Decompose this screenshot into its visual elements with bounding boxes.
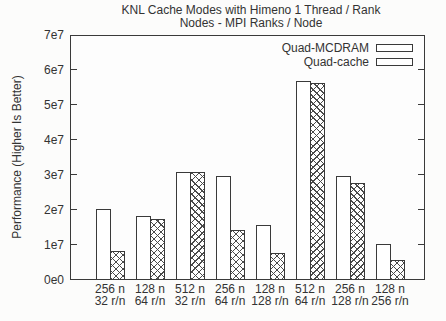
bar-quad-cache-512-n-64-r-n [310,83,325,279]
x-label-ranks: 256 r/n [360,296,420,308]
y-tick-label-6e7: 6e7 [34,64,64,76]
bar-quad-cache-128-n-64-r-n [150,219,165,279]
legend-swatch-quad-cache [376,58,413,66]
legend-label-quad-mcdram: Quad-MCDRAM [282,42,369,54]
bar-quad-mcdram-256-n-64-r-n [216,176,231,279]
y-tick-left-5e7 [71,104,77,105]
bar-quad-cache-512-n-32-r-n [190,172,205,279]
bar-quad-mcdram-256-n-128-r-n [336,176,351,279]
y-tick-left-2e7 [71,209,77,210]
y-tick-label-3e7: 3e7 [34,169,64,181]
y-tick-left-3e7 [71,174,77,175]
bar-quad-mcdram-128-n-64-r-n [136,216,151,279]
bar-quad-cache-128-n-128-r-n [270,253,285,279]
y-tick-label-1e7: 1e7 [34,239,64,251]
x-category-label-128-n-256-r-n: 128 n256 r/n [360,284,420,307]
legend-label-quad-cache: Quad-cache [304,56,369,68]
y-tick-left-4e7 [71,139,77,140]
bar-quad-mcdram-128-n-128-r-n [256,225,271,279]
y-tick-label-2e7: 2e7 [34,204,64,216]
legend-swatch-quad-mcdram [376,44,413,52]
y-tick-right-2e7 [418,209,424,210]
y-tick-left-1e7 [71,244,77,245]
bar-quad-cache-256-n-128-r-n [350,183,365,279]
legend-row-quad-mcdram: Quad-MCDRAM [282,42,413,54]
bar-quad-mcdram-512-n-32-r-n [176,172,191,279]
y-tick-label-7e7: 7e7 [34,29,64,41]
chart-subtitle: Nodes - MPI Ranks / Node [56,17,446,29]
bar-quad-cache-128-n-256-r-n [390,260,405,279]
knl-cache-modes-chart: KNL Cache Modes with Himeno 1 Thread / R… [0,0,446,321]
y-tick-label-0e0: 0e0 [34,274,64,286]
legend: Quad-MCDRAM Quad-cache [282,42,413,68]
y-tick-right-1e7 [418,244,424,245]
bar-quad-cache-256-n-32-r-n [110,251,125,279]
bar-quad-mcdram-256-n-32-r-n [96,209,111,279]
legend-row-quad-cache: Quad-cache [282,56,413,68]
y-tick-right-3e7 [418,174,424,175]
bar-quad-mcdram-512-n-64-r-n [296,81,311,279]
bar-quad-mcdram-128-n-256-r-n [376,244,391,279]
y-tick-right-6e7 [418,69,424,70]
chart-title: KNL Cache Modes with Himeno 1 Thread / R… [56,4,446,16]
bar-quad-cache-256-n-64-r-n [230,230,245,279]
y-tick-right-4e7 [418,139,424,140]
y-axis-label: Performance (Higher Is Better) [10,75,24,238]
y-tick-label-4e7: 4e7 [34,134,64,146]
y-tick-right-5e7 [418,104,424,105]
y-tick-left-6e7 [71,69,77,70]
plot-area: Quad-MCDRAM Quad-cache [70,35,425,280]
y-tick-label-5e7: 5e7 [34,99,64,111]
